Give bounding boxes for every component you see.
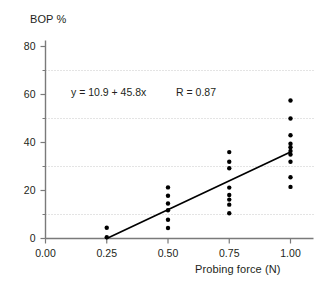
data-point bbox=[288, 133, 292, 137]
regression-line bbox=[107, 152, 291, 238]
data-point bbox=[288, 152, 292, 156]
data-point bbox=[227, 202, 231, 206]
ticks-group bbox=[41, 47, 291, 244]
data-point bbox=[227, 197, 231, 201]
data-point bbox=[288, 175, 292, 179]
data-point bbox=[105, 235, 109, 239]
y-tick-label: 40 bbox=[12, 136, 36, 148]
data-point bbox=[227, 150, 231, 154]
data-point bbox=[166, 218, 170, 222]
data-point bbox=[166, 201, 170, 205]
data-point bbox=[288, 116, 292, 120]
data-point bbox=[227, 193, 231, 197]
data-point bbox=[227, 160, 231, 164]
x-tick-label: 0.75 bbox=[209, 247, 249, 259]
data-point bbox=[227, 166, 231, 170]
y-tick-label: 80 bbox=[12, 40, 36, 52]
data-points-group bbox=[105, 98, 293, 239]
x-tick-label: 0.50 bbox=[148, 247, 188, 259]
y-tick-label: 0 bbox=[12, 232, 36, 244]
data-point bbox=[166, 208, 170, 212]
data-point bbox=[227, 185, 231, 189]
data-point bbox=[105, 226, 109, 230]
data-point bbox=[227, 211, 231, 215]
y-tick-label: 20 bbox=[12, 184, 36, 196]
y-tick-label: 60 bbox=[12, 88, 36, 100]
x-tick-label: 0.00 bbox=[26, 247, 66, 259]
x-tick-label: 0.25 bbox=[87, 247, 127, 259]
data-point bbox=[166, 185, 170, 189]
data-point bbox=[166, 226, 170, 230]
axes-group bbox=[46, 41, 314, 239]
chart-figure: BOP % Probing force (N) y = 10.9 + 45.8x… bbox=[0, 0, 323, 290]
data-point bbox=[288, 98, 292, 102]
data-point bbox=[288, 185, 292, 189]
data-point bbox=[166, 194, 170, 198]
data-point bbox=[288, 160, 292, 164]
gridlines-group bbox=[46, 71, 314, 215]
x-tick-label: 1.00 bbox=[271, 247, 311, 259]
regression-line-segment bbox=[107, 152, 291, 238]
